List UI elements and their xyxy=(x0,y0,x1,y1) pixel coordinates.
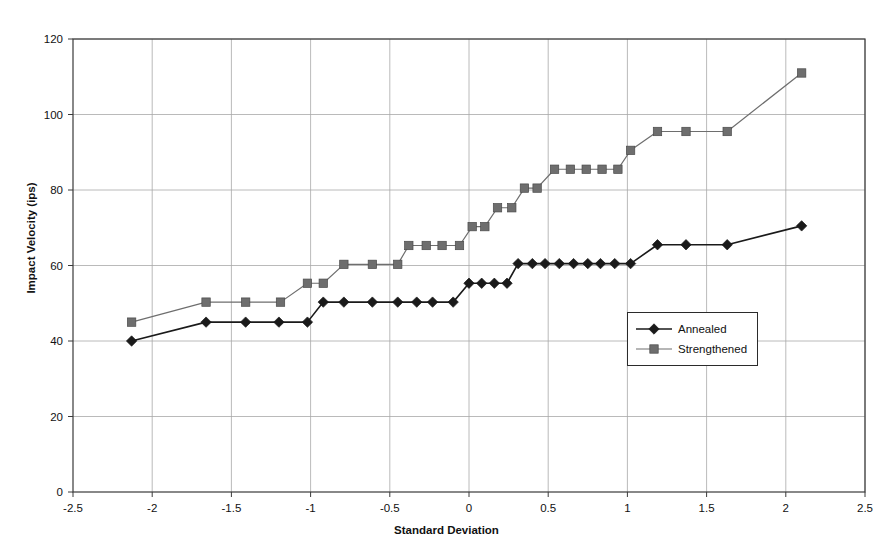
chart-legend: AnnealedStrengthened xyxy=(627,312,758,366)
legend-entry: Annealed xyxy=(635,319,747,339)
data-point-marker xyxy=(540,258,550,268)
data-point-marker xyxy=(502,278,512,288)
x-axis-title: Standard Deviation xyxy=(0,524,893,536)
data-point-marker xyxy=(614,165,622,173)
data-point-marker xyxy=(598,165,606,173)
data-point-marker xyxy=(796,221,806,231)
data-point-marker xyxy=(393,297,403,307)
data-point-marker xyxy=(241,298,249,306)
data-point-marker xyxy=(681,240,691,250)
plot-area xyxy=(0,0,893,548)
x-tick-label: 1.5 xyxy=(699,502,715,514)
data-point-marker xyxy=(368,260,376,268)
data-point-marker xyxy=(489,278,499,288)
data-point-marker xyxy=(476,278,486,288)
data-point-marker xyxy=(455,241,463,249)
data-point-marker xyxy=(240,317,250,327)
y-tick-label: 0 xyxy=(3,486,63,498)
axis-tick-marks xyxy=(68,39,865,497)
data-point-marker xyxy=(649,324,659,334)
data-point-marker xyxy=(626,146,634,154)
x-tick-label: -0.5 xyxy=(380,502,400,514)
data-point-marker xyxy=(568,258,578,268)
x-tick-label: 1 xyxy=(624,502,630,514)
y-tick-label: 80 xyxy=(3,184,63,196)
legend-diamond-marker-icon xyxy=(635,322,673,336)
legend-label: Strengthened xyxy=(678,343,747,355)
x-tick-label: -1.5 xyxy=(221,502,241,514)
data-point-marker xyxy=(650,345,658,353)
data-point-marker xyxy=(533,184,541,192)
y-tick-label: 20 xyxy=(3,411,63,423)
data-point-marker xyxy=(583,258,593,268)
y-tick-label: 120 xyxy=(3,33,63,45)
data-point-marker xyxy=(127,318,135,326)
data-point-marker xyxy=(520,184,528,192)
data-point-marker xyxy=(493,204,501,212)
data-point-marker xyxy=(339,297,349,307)
data-point-marker xyxy=(126,336,136,346)
data-point-marker xyxy=(319,279,327,287)
data-point-marker xyxy=(481,222,489,230)
data-point-marker xyxy=(412,297,422,307)
data-point-marker xyxy=(468,222,476,230)
y-tick-label: 100 xyxy=(3,109,63,121)
data-point-marker xyxy=(723,127,731,135)
data-point-marker xyxy=(340,260,348,268)
legend-entry: Strengthened xyxy=(635,339,747,359)
legend-square-marker-icon xyxy=(635,342,673,356)
data-point-marker xyxy=(722,240,732,250)
data-point-marker xyxy=(682,127,690,135)
data-point-marker xyxy=(202,298,210,306)
data-point-marker xyxy=(405,241,413,249)
data-point-marker xyxy=(438,241,446,249)
data-point-marker xyxy=(566,165,574,173)
x-tick-label: 2.5 xyxy=(857,502,873,514)
data-point-marker xyxy=(797,69,805,77)
data-point-marker xyxy=(513,258,523,268)
data-point-marker xyxy=(653,127,661,135)
y-tick-label: 40 xyxy=(3,335,63,347)
data-point-marker xyxy=(550,165,558,173)
y-axis-title: Impact Velocity (ips) xyxy=(25,138,37,338)
x-tick-label: -2.5 xyxy=(63,502,83,514)
x-tick-label: 2 xyxy=(783,502,789,514)
data-point-marker xyxy=(652,240,662,250)
x-tick-label: -2 xyxy=(147,502,157,514)
data-point-marker xyxy=(554,258,564,268)
data-point-marker xyxy=(595,258,605,268)
data-point-marker xyxy=(274,317,284,327)
data-point-marker xyxy=(427,297,437,307)
legend-label: Annealed xyxy=(678,323,727,335)
data-point-marker xyxy=(276,298,284,306)
data-point-marker xyxy=(625,258,635,268)
grid-lines xyxy=(73,39,865,492)
data-point-marker xyxy=(582,165,590,173)
chart-figure: Impact Velocity (ips) Standard Deviation… xyxy=(0,0,893,548)
data-point-marker xyxy=(508,204,516,212)
data-point-marker xyxy=(394,260,402,268)
data-point-marker xyxy=(527,258,537,268)
data-point-marker xyxy=(201,317,211,327)
x-tick-label: 0.5 xyxy=(540,502,556,514)
data-series-strengthened xyxy=(127,69,805,327)
y-tick-label: 60 xyxy=(3,260,63,272)
x-tick-label: 0 xyxy=(466,502,472,514)
data-point-marker xyxy=(303,279,311,287)
data-point-marker xyxy=(610,258,620,268)
data-point-marker xyxy=(422,241,430,249)
x-tick-label: -1 xyxy=(305,502,315,514)
data-point-marker xyxy=(367,297,377,307)
